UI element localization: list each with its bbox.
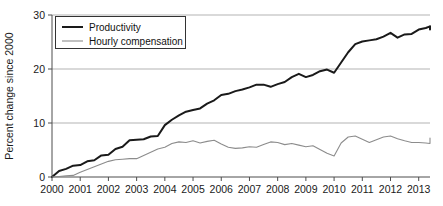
productivity-compensation-chart: 0102030 20002001200220032004200520062007… [0, 0, 443, 206]
y-tick-label: 0 [39, 171, 45, 183]
x-tick-label: 2002 [97, 183, 121, 195]
chart-canvas: 0102030 20002001200220032004200520062007… [0, 0, 443, 206]
x-tick-label: 2008 [266, 183, 290, 195]
y-tick-label: 30 [33, 9, 45, 21]
x-tick-label: 2006 [210, 183, 234, 195]
legend-label: Hourly compensation [89, 36, 183, 47]
x-tick-label: 2004 [153, 183, 177, 195]
y-tick-labels: 0102030 [33, 9, 45, 183]
x-tick-label: 2010 [322, 183, 346, 195]
series-line [52, 136, 430, 177]
x-tick-label: 2000 [40, 183, 64, 195]
x-tick-label: 2011 [351, 183, 374, 195]
y-axis-title: Percent change since 2000 [3, 32, 15, 159]
x-tick-label: 2009 [294, 183, 318, 195]
x-tick-label: 2005 [181, 183, 205, 195]
x-tick-label: 2013 [407, 183, 431, 195]
x-tick-label: 2012 [379, 183, 403, 195]
x-tick-label: 2007 [238, 183, 262, 195]
x-tick-label: 2001 [69, 183, 93, 195]
x-tick-labels: 2000200120022003200420052006200720082009… [40, 183, 430, 195]
y-tick-label: 10 [33, 117, 45, 129]
legend: ProductivityHourly compensation [56, 17, 186, 49]
x-tick-label: 2003 [125, 183, 149, 195]
x-tick-marks [52, 177, 419, 181]
y-tick-label: 20 [33, 63, 45, 75]
y-tick-marks [48, 15, 52, 177]
legend-label: Productivity [89, 22, 141, 33]
